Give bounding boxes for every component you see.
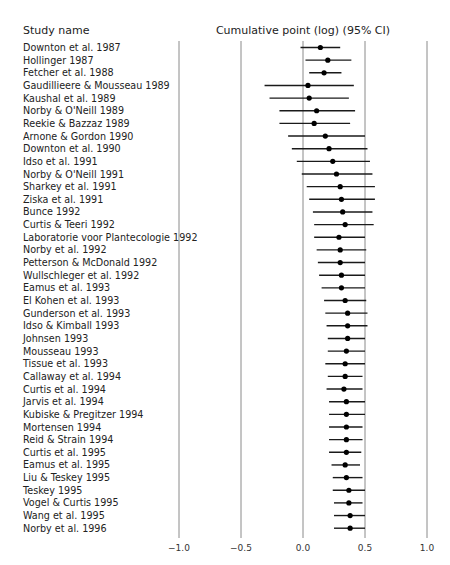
point-estimate-marker bbox=[345, 336, 350, 341]
study-row bbox=[333, 475, 363, 480]
study-row bbox=[314, 235, 365, 240]
study-row bbox=[265, 83, 354, 88]
study-row bbox=[333, 488, 365, 493]
study-row bbox=[318, 260, 365, 265]
point-estimate-marker bbox=[305, 83, 310, 88]
study-label: Curtis & Teeri 1992 bbox=[23, 219, 115, 230]
study-row bbox=[329, 450, 361, 455]
point-estimate-marker bbox=[344, 450, 349, 455]
study-label: Kubiske & Pregitzer 1994 bbox=[23, 409, 143, 420]
study-row bbox=[317, 247, 367, 252]
study-label: Norby & O'Neill 1989 bbox=[23, 105, 124, 116]
study-label: Downton et al. 1990 bbox=[23, 143, 121, 154]
point-estimate-marker bbox=[344, 349, 349, 354]
point-estimate-marker bbox=[339, 197, 344, 202]
point-estimate-marker bbox=[323, 133, 328, 138]
study-row bbox=[309, 70, 341, 75]
point-estimate-marker bbox=[314, 108, 319, 113]
study-label: Arnone & Gordon 1990 bbox=[23, 131, 133, 142]
study-row bbox=[332, 462, 361, 467]
study-row bbox=[279, 108, 355, 113]
study-label: Ziska et al. 1991 bbox=[23, 194, 103, 205]
study-label: Gaudillieere & Mousseau 1989 bbox=[23, 80, 170, 91]
study-label: Curtis et al. 1995 bbox=[23, 447, 106, 458]
study-row bbox=[305, 58, 351, 63]
point-estimate-marker bbox=[341, 386, 346, 391]
study-label: Mousseau 1993 bbox=[23, 346, 99, 357]
study-row bbox=[325, 361, 365, 366]
x-tick-label: 1.0 bbox=[420, 543, 435, 553]
point-estimate-marker bbox=[348, 526, 353, 531]
study-label: Gunderson et al. 1993 bbox=[23, 308, 130, 319]
study-row bbox=[328, 349, 365, 354]
x-tick-label: −1.0 bbox=[168, 543, 190, 553]
point-estimate-marker bbox=[336, 235, 341, 240]
point-estimate-marker bbox=[344, 399, 349, 404]
forest-plot: Study name Cumulative point (log) (95% C… bbox=[0, 0, 450, 565]
study-label: Norby et al. 1992 bbox=[23, 244, 107, 255]
study-label: Idso & Kimball 1993 bbox=[23, 320, 119, 331]
study-label: Wullschleger et al. 1992 bbox=[23, 270, 139, 281]
study-row bbox=[302, 171, 373, 176]
point-estimate-marker bbox=[343, 462, 348, 467]
point-estimate-marker bbox=[343, 222, 348, 227]
study-label: Norby & O'Neill 1991 bbox=[23, 169, 124, 180]
study-label: Kaushal et al. 1989 bbox=[23, 93, 116, 104]
study-label: Eamus et al. 1993 bbox=[23, 282, 110, 293]
point-estimate-marker bbox=[321, 70, 326, 75]
study-row bbox=[324, 298, 366, 303]
study-label: Norby et al. 1996 bbox=[23, 523, 107, 534]
point-estimate-marker bbox=[344, 475, 349, 480]
study-label: Idso et al. 1991 bbox=[23, 156, 98, 167]
point-estimate-marker bbox=[346, 500, 351, 505]
point-estimate-marker bbox=[344, 437, 349, 442]
study-label: Johnsen 1993 bbox=[22, 333, 88, 344]
study-row bbox=[328, 374, 363, 379]
study-intervals bbox=[265, 45, 375, 531]
study-row bbox=[328, 336, 365, 341]
study-row bbox=[329, 399, 365, 404]
point-estimate-marker bbox=[339, 273, 344, 278]
point-estimate-marker bbox=[345, 311, 350, 316]
point-estimate-marker bbox=[343, 361, 348, 366]
point-estimate-marker bbox=[343, 374, 348, 379]
study-label: Wang et al. 1995 bbox=[23, 510, 105, 521]
point-estimate-marker bbox=[338, 247, 343, 252]
point-estimate-marker bbox=[307, 96, 312, 101]
study-row bbox=[327, 323, 368, 328]
study-label: Vogel & Curtis 1995 bbox=[23, 497, 119, 508]
point-estimate-marker bbox=[338, 184, 343, 189]
study-row bbox=[327, 386, 363, 391]
point-estimate-marker bbox=[340, 209, 345, 214]
study-label: Downton et al. 1987 bbox=[23, 42, 121, 53]
study-row bbox=[313, 209, 373, 214]
point-estimate-marker bbox=[344, 412, 349, 417]
study-label: Hollinger 1987 bbox=[23, 55, 94, 66]
study-row bbox=[322, 285, 365, 290]
point-estimate-marker bbox=[312, 121, 317, 126]
study-label: El Kohen et al. 1993 bbox=[23, 295, 119, 306]
study-label: Mortensen 1994 bbox=[23, 422, 101, 433]
point-estimate-marker bbox=[334, 171, 339, 176]
study-row bbox=[325, 311, 367, 316]
study-label: Bunce 1992 bbox=[23, 206, 80, 217]
study-row bbox=[270, 96, 349, 101]
study-row bbox=[334, 500, 363, 505]
study-label: Fetcher et al. 1988 bbox=[23, 67, 114, 78]
study-row bbox=[329, 437, 362, 442]
study-row bbox=[301, 45, 341, 50]
study-label: Reekie & Bazzaz 1989 bbox=[23, 118, 130, 129]
study-row bbox=[334, 526, 365, 531]
study-row bbox=[297, 159, 370, 164]
x-axis-ticks: −1.0−0.50.00.51.0 bbox=[168, 543, 434, 553]
x-tick-label: −0.5 bbox=[230, 543, 252, 553]
study-label: Callaway et al. 1994 bbox=[23, 371, 121, 382]
study-row bbox=[334, 513, 365, 518]
plot-header: Cumulative point (log) (95% CI) bbox=[216, 24, 390, 37]
study-label: Laboratorie voor Plantecologie 1992 bbox=[23, 232, 198, 243]
study-name-header: Study name bbox=[23, 24, 90, 37]
point-estimate-marker bbox=[330, 159, 335, 164]
study-row bbox=[329, 424, 362, 429]
study-row bbox=[329, 412, 365, 417]
point-estimate-marker bbox=[326, 146, 331, 151]
